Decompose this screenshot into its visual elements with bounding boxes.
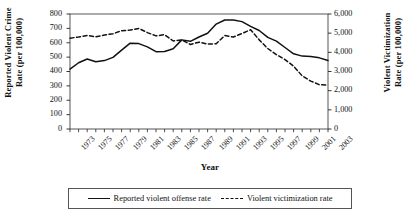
legend-item-violent-victimization-rate: Violent victimization rate bbox=[221, 194, 333, 203]
plot-area bbox=[0, 0, 417, 220]
legend-item-reported-violent-offense-rate: Reported violent offense rate bbox=[88, 194, 211, 203]
legend-line-dashed-icon bbox=[221, 198, 243, 199]
chart-legend: Reported violent offense rate Violent vi… bbox=[68, 188, 352, 209]
legend-label: Violent victimization rate bbox=[247, 194, 333, 203]
legend-label: Reported violent offense rate bbox=[114, 194, 211, 203]
chart-figure: Reported Violent CrimeRate (per 100,000)… bbox=[0, 0, 417, 220]
series-line-1 bbox=[70, 20, 328, 69]
legend-line-solid-icon bbox=[88, 198, 110, 199]
